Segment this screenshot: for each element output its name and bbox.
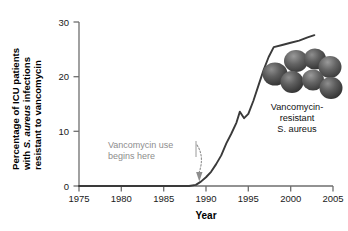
x-tick-label-1980: 1980 <box>111 193 132 204</box>
callout-line-2: begins here <box>108 151 155 161</box>
chart-figure: Percentage of ICU patients with S. aureu… <box>0 0 348 231</box>
photo-caption-line-3: S. aureus <box>277 124 317 134</box>
y-axis-label-line-1: Percentage of ICU patients <box>10 48 21 170</box>
photo-caption-line-1: Vancomycin- <box>271 102 323 112</box>
x-tick-label-1975: 1975 <box>68 193 89 204</box>
x-axis-title: Year <box>195 210 216 221</box>
y-axis-label-line-2-suffix: infections <box>21 57 32 105</box>
x-tick-label-2000: 2000 <box>280 193 301 204</box>
photo-caption: Vancomycin- resistant S. aureus <box>271 102 323 134</box>
coccus-cell-5 <box>281 71 304 93</box>
y-axis-label: Percentage of ICU patients with S. aureu… <box>10 48 43 171</box>
y-axis-label-line-2-prefix: with <box>21 148 32 171</box>
x-tick-label-2005: 2005 <box>322 193 343 204</box>
chart-canvas: Percentage of ICU patients with S. aureu… <box>0 0 348 231</box>
callout-line-1: Vancomycin use <box>108 140 173 150</box>
coccus-cell-7 <box>320 77 343 99</box>
y-axis-ticks: 0 10 20 30 <box>58 17 79 192</box>
s-aureus-micrograph-photo <box>263 49 343 100</box>
x-tick-label-1990: 1990 <box>195 193 216 204</box>
y-axis-label-line-2: with S. aureus infections <box>21 57 32 171</box>
photo-caption-line-2: resistant <box>280 113 315 123</box>
y-tick-label-0: 0 <box>64 181 69 192</box>
y-axis-label-line-3: resistant to vancomycin <box>32 60 43 170</box>
y-tick-label-10: 10 <box>58 126 69 137</box>
x-axis-ticks: 1975 1980 1985 1990 1995 2000 2005 <box>68 186 343 204</box>
y-axis-label-line-2-italic: S. aureus <box>21 105 32 148</box>
vancomycin-use-callout: Vancomycin use begins here <box>108 140 203 182</box>
y-tick-label-30: 30 <box>58 17 69 28</box>
x-tick-label-1995: 1995 <box>238 193 259 204</box>
x-tick-label-1985: 1985 <box>153 193 174 204</box>
callout-arrow-curve <box>197 145 201 172</box>
y-tick-label-20: 20 <box>58 71 69 82</box>
